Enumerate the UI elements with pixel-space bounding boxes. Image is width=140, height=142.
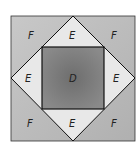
label-e-right: E (113, 73, 120, 84)
label-f-top-left: F (28, 30, 34, 41)
label-f-bottom-right: F (111, 118, 117, 129)
label-e-bottom: E (69, 118, 76, 129)
label-e-top: E (69, 30, 76, 41)
label-f-top-right: F (111, 30, 117, 41)
label-d-center: D (69, 73, 77, 84)
label-e-left: E (25, 73, 32, 84)
nested-squares-diagram: F E F E D E F E F (0, 0, 140, 142)
label-f-bottom-left: F (27, 118, 33, 129)
